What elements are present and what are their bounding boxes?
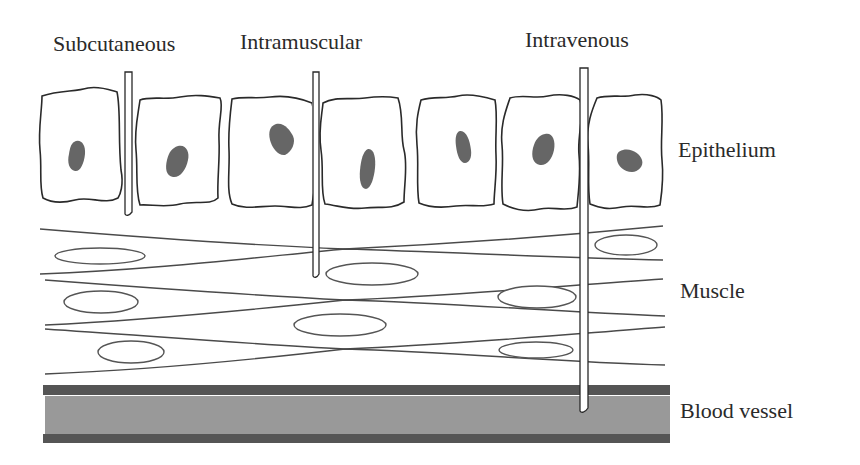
muscle-nucleus [64,291,138,313]
muscle-nucleus [294,314,386,336]
vessel-wall-bottom [43,434,670,443]
layer-label-epithelium: Epithelium [678,137,776,162]
needle-subcutaneous [125,72,132,215]
epithelial-cell [416,95,496,207]
epithelial-cell [588,94,663,208]
muscle-layer [40,226,665,374]
vessel-wall-top [43,385,670,395]
layer-label-blood-vessel: Blood vessel [680,398,793,423]
needle-label-intravenous: Intravenous [525,27,629,52]
blood-vessel [43,385,670,443]
muscle-nucleus [326,263,418,285]
muscle-nucleus [595,235,657,255]
needle-intravenous [580,68,588,412]
epithelial-cell [39,87,122,202]
epithelial-cell [320,97,406,209]
epithelial-cell [502,95,582,211]
muscle-nucleus [498,286,576,308]
needle-label-intramuscular: Intramuscular [240,29,363,54]
injection-routes-diagram: Subcutaneous Intramuscular Intravenous E… [0,0,860,465]
needle-label-subcutaneous: Subcutaneous [53,31,175,56]
muscle-nucleus [98,341,164,363]
muscle-nucleus [499,342,573,358]
vessel-lumen [45,396,670,434]
layer-label-muscle: Muscle [680,278,745,303]
needle-intramuscular [312,72,319,277]
epithelial-cell [229,96,315,207]
epithelial-cell [135,95,221,205]
muscle-nucleus [55,248,145,264]
epithelium-layer [39,87,662,210]
